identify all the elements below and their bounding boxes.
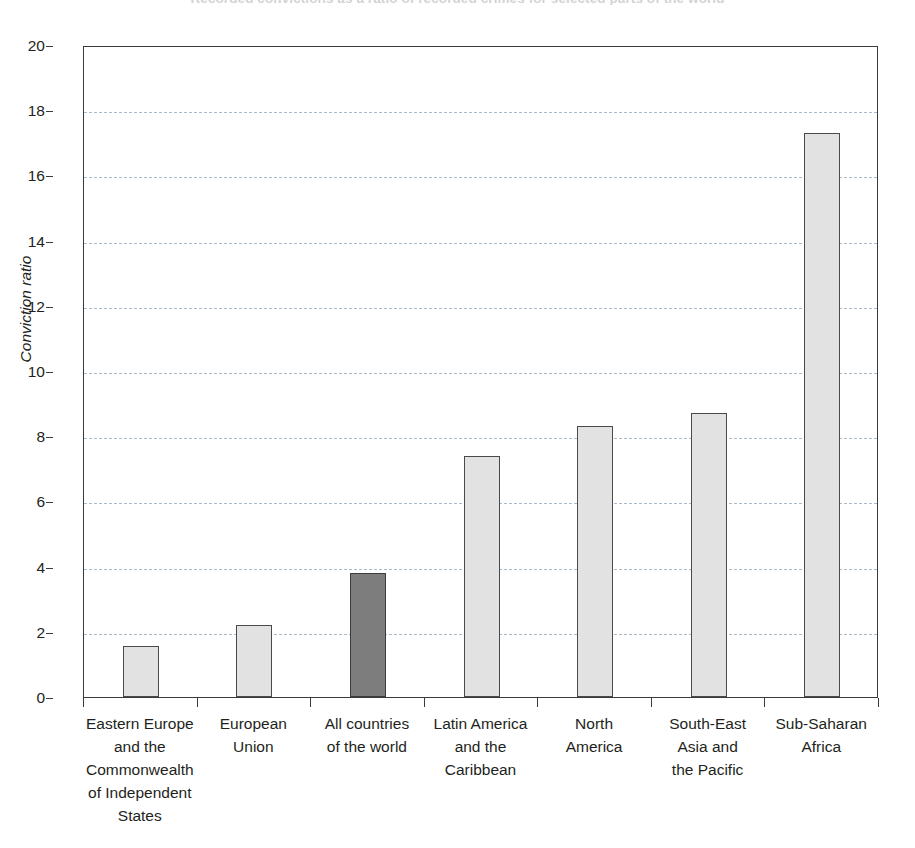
y-axis-tick-label: 20 — [28, 37, 45, 55]
y-axis-tick-mark — [46, 633, 53, 634]
bar-series — [84, 47, 877, 697]
plot-area — [83, 46, 878, 698]
y-axis-tick-mark — [46, 372, 53, 373]
x-axis-tick-label: Eastern Europeand theCommonwealthof Inde… — [83, 712, 197, 827]
x-axis-tick-mark — [197, 698, 198, 707]
y-axis-tick-label: 12 — [28, 298, 45, 316]
x-axis-tick-label: EuropeanUnion — [197, 712, 311, 758]
y-axis-tick-label: 2 — [36, 624, 45, 642]
y-axis-tick-label: 6 — [36, 493, 45, 511]
y-axis-tick-mark — [46, 46, 53, 47]
x-axis-tick-label: All countriesof the world — [310, 712, 424, 758]
bar — [804, 133, 840, 697]
y-axis-tick-label: 18 — [28, 102, 45, 120]
x-axis-tick-mark — [878, 698, 879, 707]
y-axis-tick-mark — [46, 502, 53, 503]
chart-title: Recorded convictions as a ratio of recor… — [0, 0, 915, 5]
x-axis-tick-mark — [537, 698, 538, 707]
y-axis-tick-mark — [46, 242, 53, 243]
y-axis-tick-label: 16 — [28, 167, 45, 185]
x-axis-tick-mark — [764, 698, 765, 707]
y-axis-tick-label: 10 — [28, 363, 45, 381]
bar — [691, 413, 727, 697]
x-axis-tick-mark — [651, 698, 652, 707]
y-axis-tick-label: 0 — [36, 689, 45, 707]
x-axis-tick-label: NorthAmerica — [537, 712, 651, 758]
y-axis-tick-mark — [46, 111, 53, 112]
x-axis-tick-label: Sub-SaharanAfrica — [764, 712, 878, 758]
x-axis-tick-mark — [310, 698, 311, 707]
x-axis-tick-mark — [83, 698, 84, 707]
bar — [236, 625, 272, 697]
y-axis-tick-label: 14 — [28, 233, 45, 251]
x-axis-tick-label: Latin Americaand theCaribbean — [424, 712, 538, 781]
y-axis-tick-mark — [46, 176, 53, 177]
y-axis-tick-label: 8 — [36, 428, 45, 446]
bar — [577, 426, 613, 697]
y-axis-tick-mark — [46, 568, 53, 569]
y-axis: 02468101214161820 — [0, 0, 83, 848]
y-axis-tick-mark — [46, 437, 53, 438]
bar — [464, 456, 500, 697]
y-axis-tick-label: 4 — [36, 559, 45, 577]
y-axis-tick-mark — [46, 307, 53, 308]
x-axis-tick-mark — [424, 698, 425, 707]
chart-figure: Recorded convictions as a ratio of recor… — [0, 0, 915, 848]
bar — [123, 646, 159, 697]
bar — [350, 573, 386, 697]
x-axis-tick-label: South-EastAsia andthe Pacific — [651, 712, 765, 781]
y-axis-tick-mark — [46, 698, 53, 699]
